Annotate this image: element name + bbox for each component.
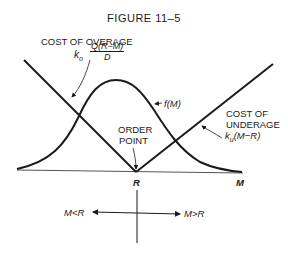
cost-of-underage-line2: UNDERAGE [226,119,280,130]
overage-numerator: Q(R−M) [90,41,124,52]
underage-formula: ku(M−R) [225,130,260,145]
overage-pointer-arrow [72,60,90,97]
order-point-line2: POINT [119,135,148,146]
m-greater-than-r-label: M>R [184,208,204,219]
density-label: f(M) [164,98,181,109]
m-axis-line [17,170,243,173]
order-point-pointer-arrow [133,148,136,169]
left-arrow-m-less-r [93,212,137,213]
overage-coefficient: ko [74,49,83,64]
underage-expression: (M−R) [234,130,261,141]
overage-fraction: Q(R−M) D [90,41,124,62]
right-arrow-m-greater-r [137,213,180,214]
overage-denominator: D [90,52,124,62]
m-axis-label: M [236,177,244,188]
order-point-line1: ORDER [118,124,152,135]
density-pointer-arrow [155,103,162,104]
overage-k-subscript: o [79,55,83,62]
cost-of-underage-line1: COST OF [226,108,268,119]
r-axis-label: R [133,177,140,188]
underage-pointer-arrow [202,126,222,138]
m-less-than-r-label: M<R [64,207,84,218]
